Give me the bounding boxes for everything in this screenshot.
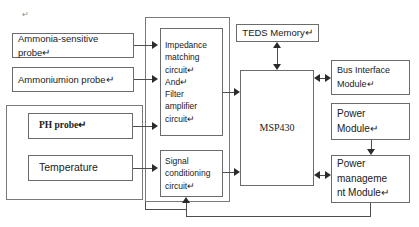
connector-teds-to-mcu xyxy=(277,46,278,66)
node-label: Signal conditioning circuit↵ xyxy=(165,155,210,192)
arrow-power-to-power-management xyxy=(367,149,375,155)
node-label: Power Module↵ xyxy=(337,107,378,136)
feedback-bus-outer-riser xyxy=(145,202,146,210)
node-signal-conditioning-circuit[interactable]: Signal conditioning circuit↵ xyxy=(160,150,223,197)
node-ammoniumion-probe[interactable]: Ammoniumion probe↵ xyxy=(12,67,134,92)
stray-paragraph-mark: ↵ xyxy=(22,10,29,19)
node-power-management-module[interactable]: Power manageme nt Module↵ xyxy=(331,155,410,203)
arrow-ph-to-frontend xyxy=(152,122,158,130)
node-ph-probe[interactable]: PH probe↵ xyxy=(28,113,133,139)
node-label: TEDS Memory↵ xyxy=(242,26,312,40)
arrow-bus-interface-right xyxy=(325,74,331,82)
node-temperature[interactable]: Temperature xyxy=(28,155,133,181)
node-label: Ammonia-sensitive probe↵ xyxy=(18,32,133,60)
node-label: Power manageme nt Module↵ xyxy=(337,157,389,201)
node-impedance-matching-filter-amplifier[interactable]: Impedance matching circuit↵ And↵ Filter … xyxy=(160,28,223,136)
arrow-teds-up xyxy=(273,42,281,48)
feedback-bus-riser-right xyxy=(370,203,371,216)
arrow-ammonia-to-frontend xyxy=(152,41,158,49)
block-diagram: ↵ Ammonia-sensitive probe↵ Ammoniumion p… xyxy=(0,0,419,227)
node-msp430[interactable]: MSP430 xyxy=(240,70,314,186)
connector-temperature-to-signal-conditioning xyxy=(133,168,152,169)
arrow-power-management-right xyxy=(325,171,331,179)
connector-ph-to-frontend xyxy=(133,126,152,127)
feedback-bus-outer-horizontal xyxy=(145,209,187,210)
arrow-feedback-to-signal-conditioning xyxy=(182,197,190,203)
node-label: Impedance matching circuit↵ And↵ Filter … xyxy=(165,39,207,125)
node-teds-memory[interactable]: TEDS Memory↵ xyxy=(236,24,319,42)
arrow-power-management-left xyxy=(314,171,320,179)
connector-ammonia-to-frontend xyxy=(134,45,152,46)
node-power-module[interactable]: Power Module↵ xyxy=(331,103,410,140)
arrow-ammonium-to-frontend xyxy=(152,75,158,83)
node-label: Temperature xyxy=(39,160,98,175)
node-label: Bus Interface Module↵ xyxy=(337,64,390,90)
connector-frontend-to-mcu xyxy=(223,92,234,93)
node-label: MSP430 xyxy=(259,121,294,136)
arrow-signal-conditioning-to-mcu xyxy=(234,168,240,176)
node-ammonia-sensitive-probe[interactable]: Ammonia-sensitive probe↵ xyxy=(12,33,134,58)
arrow-bus-interface-left xyxy=(314,74,320,82)
node-label: PH probe↵ xyxy=(39,119,86,133)
node-bus-interface-module[interactable]: Bus Interface Module↵ xyxy=(331,60,410,95)
arrow-teds-down xyxy=(273,64,281,70)
feedback-bus-horizontal xyxy=(186,216,371,217)
connector-signal-conditioning-to-mcu xyxy=(223,172,234,173)
connector-ammonium-to-frontend xyxy=(134,79,152,80)
arrow-frontend-to-mcu xyxy=(234,88,240,96)
connector-power-to-power-management xyxy=(371,140,372,149)
node-label: Ammoniumion probe↵ xyxy=(18,73,114,87)
arrow-temperature-to-signal-conditioning xyxy=(152,164,158,172)
